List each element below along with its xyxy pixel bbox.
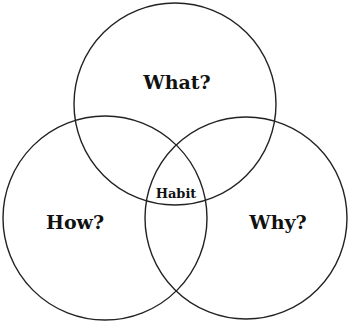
- label-habit: Habit: [156, 186, 197, 201]
- label-how: How?: [46, 211, 104, 233]
- label-what: What?: [143, 71, 210, 93]
- circle-what: [74, 3, 276, 205]
- circle-how: [3, 116, 207, 320]
- circle-why: [145, 117, 347, 319]
- venn-diagram: [0, 0, 350, 326]
- label-why: Why?: [249, 211, 306, 233]
